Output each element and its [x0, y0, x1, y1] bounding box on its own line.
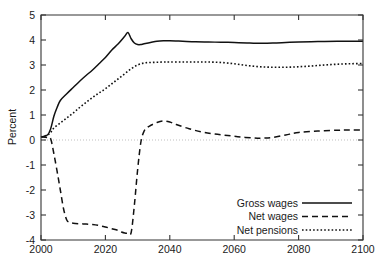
legend-label-net-wages: Net wages [248, 210, 298, 222]
y-tick-label-1: 1 [29, 109, 35, 121]
y-tick-labels: -4-3-2-1012345 [26, 9, 36, 246]
y-tick-label-2: 2 [29, 84, 35, 96]
x-tick-labels: 200020202040206020802100 [29, 243, 375, 255]
y-tick-label-3: 3 [29, 59, 35, 71]
y-tick-label--3: -3 [26, 209, 35, 221]
x-tick-label-2100: 2100 [351, 243, 375, 255]
legend-label-gross-wages: Gross wages [237, 197, 298, 209]
y-axis-title: Percent [6, 109, 18, 145]
x-tick-label-2040: 2040 [158, 243, 182, 255]
y-tick-label--4: -4 [26, 234, 35, 246]
y-tick-label-0: 0 [29, 134, 35, 146]
y-tick-label-5: 5 [29, 9, 35, 21]
y-tick-label--1: -1 [26, 159, 35, 171]
y-axis-title-text: Percent [6, 109, 18, 145]
plot-background [41, 15, 363, 240]
x-tick-label-2060: 2060 [223, 243, 247, 255]
chart-page: 200020202040206020802100 -4-3-2-1012345 … [0, 0, 386, 273]
line-chart: 200020202040206020802100 -4-3-2-1012345 … [0, 0, 386, 273]
y-tick-label-4: 4 [29, 34, 35, 46]
x-tick-label-2020: 2020 [94, 243, 118, 255]
legend-label-net-pensions: Net pensions [237, 224, 298, 236]
x-tick-label-2080: 2080 [287, 243, 311, 255]
y-tick-label--2: -2 [26, 184, 35, 196]
